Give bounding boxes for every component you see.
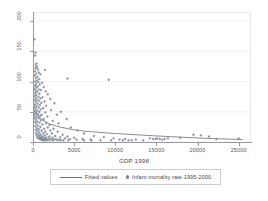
legend-label-infant-mortality: Infant mortality rate 1995-2000: [132, 174, 211, 180]
line-swatch-icon: [60, 177, 82, 178]
x-axis-tick-mark: [33, 143, 34, 146]
diamond-marker-icon: [126, 175, 129, 178]
y-axis-tick-label: 200: [16, 8, 22, 24]
plot-area: [33, 12, 251, 142]
legend-entry-infant-mortality: Infant mortality rate 1995-2000: [126, 174, 212, 180]
x-axis-tick-label: 20000: [183, 147, 213, 153]
x-axis-tick-label: 25000: [224, 147, 254, 153]
y-axis-tick-label: 0: [16, 129, 22, 145]
y-axis-tick-mark: [30, 82, 33, 83]
x-axis-tick-label: 15000: [141, 147, 171, 153]
x-axis-line: [33, 142, 252, 143]
x-axis-tick-label: 0: [18, 147, 48, 153]
legend-label-fitted-values: Fitted values: [85, 174, 118, 180]
y-axis-tick-mark: [30, 51, 33, 52]
x-axis-tick-mark: [239, 143, 240, 146]
y-axis-tick-mark: [30, 21, 33, 22]
x-axis-title: GDP 1998: [0, 157, 268, 164]
chart-legend: Fitted values Infant mortality rate 1995…: [50, 169, 221, 185]
legend-entry-fitted-values: Fitted values: [60, 174, 118, 180]
x-axis-tick-mark: [115, 143, 116, 146]
y-axis-line: [33, 12, 34, 143]
x-axis-tick-mark: [74, 143, 75, 146]
y-axis-tick-label: 50: [16, 99, 22, 115]
y-axis-tick-mark: [30, 112, 33, 113]
y-axis-tick-label: 150: [16, 38, 22, 54]
chart-container: 050100150200 0500010000150002000025000 G…: [0, 0, 268, 201]
x-axis-tick-mark: [198, 143, 199, 146]
scatter-points: [33, 12, 251, 142]
x-axis-tick-mark: [156, 143, 157, 146]
x-axis-tick-label: 5000: [59, 147, 89, 153]
y-axis-tick-label: 100: [16, 69, 22, 85]
x-axis-tick-label: 10000: [100, 147, 130, 153]
